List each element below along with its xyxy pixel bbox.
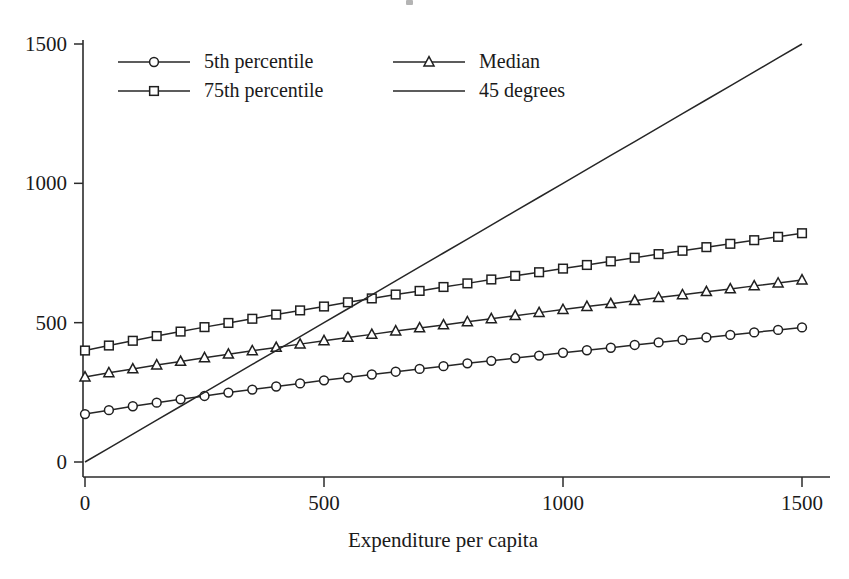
data-point-marker-square (176, 327, 185, 336)
legend-label: 75th percentile (204, 79, 324, 102)
y-tick-label: 500 (36, 311, 68, 335)
data-point-marker-triangle (797, 275, 807, 284)
data-point-marker-square (630, 253, 639, 262)
data-point-marker-circle (606, 343, 615, 352)
data-point-marker-circle (343, 373, 352, 382)
data-point-marker-square (535, 268, 544, 277)
data-point-marker-square (583, 261, 592, 270)
data-point-marker-circle (439, 362, 448, 371)
data-point-marker-circle (463, 359, 472, 368)
line-chart-canvas: 050010001500 050010001500 5th percentile… (0, 0, 849, 579)
y-tick-group: 050010001500 (25, 32, 83, 474)
data-point-marker-circle (367, 370, 376, 379)
x-tick-label: 0 (80, 491, 91, 515)
data-point-marker-circle (272, 382, 281, 391)
series-75th-percentile (81, 229, 807, 355)
x-tick-group: 050010001500 (80, 477, 823, 515)
data-point-marker-circle (81, 410, 90, 419)
y-axis: 050010001500 (25, 32, 83, 477)
data-point-marker-square (487, 275, 496, 284)
data-point-marker-square (726, 239, 735, 248)
data-point-marker-square (702, 243, 711, 252)
data-point-marker-circle (296, 379, 305, 388)
data-point-marker-circle (654, 338, 663, 347)
chart-legend: 5th percentileMedian75th percentile45 de… (118, 50, 565, 102)
data-point-marker-circle (535, 351, 544, 360)
legend-item-median[interactable]: Median (393, 50, 540, 72)
data-point-marker-circle (726, 331, 735, 340)
data-point-marker-circle (750, 328, 759, 337)
data-point-marker-square (798, 229, 807, 238)
chart-figure: 050010001500 050010001500 5th percentile… (0, 0, 849, 579)
series-line (85, 44, 802, 462)
data-point-marker-circle (176, 395, 185, 404)
data-point-marker-square (654, 250, 663, 259)
data-point-marker-circle (248, 385, 257, 394)
data-point-marker-circle (582, 346, 591, 355)
y-tick-label: 1000 (25, 171, 67, 195)
data-point-marker-circle (152, 398, 161, 407)
data-point-marker-circle (798, 323, 807, 332)
data-point-marker-square (415, 287, 424, 296)
data-point-marker-circle (150, 58, 159, 67)
data-point-marker-square (678, 246, 687, 255)
legend-label: 5th percentile (204, 50, 314, 73)
data-point-marker-square (774, 233, 783, 242)
x-axis: 050010001500 (80, 477, 830, 515)
data-point-marker-square (248, 314, 257, 323)
y-tick-label: 1500 (25, 32, 67, 56)
legend-item-5th-percentile[interactable]: 5th percentile (118, 50, 314, 73)
data-point-marker-square (439, 283, 448, 292)
data-point-marker-circle (678, 336, 687, 345)
data-point-marker-circle (224, 388, 233, 397)
data-point-marker-square (200, 323, 209, 332)
data-point-marker-circle (702, 333, 711, 342)
data-point-marker-square (81, 346, 90, 355)
data-point-marker-square (344, 298, 353, 307)
x-tick-label: 1500 (781, 491, 823, 515)
data-point-marker-circle (415, 365, 424, 374)
data-point-marker-square (320, 302, 329, 311)
x-tick-label: 500 (308, 491, 340, 515)
data-point-marker-square (272, 310, 281, 319)
data-point-marker-square (606, 257, 615, 266)
data-point-marker-circle (487, 356, 496, 365)
data-point-marker-square (150, 87, 159, 96)
x-axis-title: Expenditure per capita (348, 528, 539, 552)
data-point-marker-circle (104, 406, 113, 415)
data-point-marker-square (224, 319, 233, 328)
x-tick-label: 1000 (542, 491, 584, 515)
legend-label: 45 degrees (479, 79, 565, 102)
data-point-marker-circle (128, 402, 137, 411)
legend-item-75th-percentile[interactable]: 75th percentile (118, 79, 324, 102)
data-point-marker-square (463, 279, 472, 288)
data-point-marker-square (152, 332, 161, 341)
data-point-marker-square (511, 272, 520, 281)
data-point-marker-square (296, 306, 305, 315)
data-series-group (80, 44, 807, 462)
series-5th-percentile (81, 323, 807, 419)
data-point-marker-circle (511, 354, 520, 363)
data-point-marker-circle (774, 325, 783, 334)
data-point-marker-square (391, 290, 400, 299)
data-point-marker-square (105, 341, 114, 350)
data-point-marker-circle (630, 341, 639, 350)
data-point-marker-circle (320, 376, 329, 385)
data-point-marker-square (559, 264, 568, 273)
legend-label: Median (479, 50, 540, 72)
data-point-marker-square (128, 336, 137, 345)
series-45-degrees (85, 44, 802, 462)
data-point-marker-square (750, 236, 759, 245)
page-artifact-speck (406, 0, 413, 5)
data-point-marker-circle (391, 367, 400, 376)
data-point-marker-circle (559, 348, 568, 357)
legend-item-45-degrees[interactable]: 45 degrees (393, 79, 565, 102)
y-tick-label: 0 (57, 450, 68, 474)
